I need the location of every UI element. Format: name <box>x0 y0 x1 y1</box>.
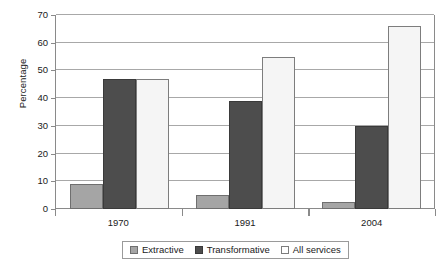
bar-group-1970 <box>56 15 182 209</box>
x-axis-tick-labels: 197019912004 <box>55 217 435 228</box>
bars-1991 <box>182 15 308 209</box>
y-tick-label-30: 30 <box>2 121 48 131</box>
y-tick-label-70: 70 <box>2 10 48 20</box>
bar-allservices-1991[interactable] <box>262 57 295 209</box>
x-tick-label-1970: 1970 <box>55 217 182 228</box>
bars-2004 <box>308 15 434 209</box>
legend-label-allservices: All services <box>293 244 341 255</box>
legend-entry-allservices[interactable]: All services <box>281 244 341 255</box>
bar-allservices-1970[interactable] <box>136 79 169 209</box>
x-tick-mark-2 <box>308 209 309 216</box>
y-tick-mark-40 <box>51 98 55 99</box>
legend-swatch-allservices-icon <box>281 246 289 254</box>
legend-entry-extractive[interactable]: Extractive <box>130 244 184 255</box>
bar-group-2004 <box>308 15 434 209</box>
bar-transformative-2004[interactable] <box>355 126 388 209</box>
x-tick-mark-3 <box>435 209 436 216</box>
bar-group-1991 <box>182 15 308 209</box>
y-tick-mark-20 <box>51 154 55 155</box>
x-axis-tick-marks <box>55 209 435 216</box>
bars-1970 <box>56 15 182 209</box>
legend-swatch-extractive-icon <box>130 246 138 254</box>
bar-transformative-1970[interactable] <box>103 79 136 209</box>
bar-allservices-2004[interactable] <box>388 26 421 209</box>
y-tick-mark-70 <box>51 15 55 16</box>
y-tick-label-0: 0 <box>2 204 48 214</box>
y-tick-label-50: 50 <box>2 65 48 75</box>
y-tick-label-40: 40 <box>2 93 48 103</box>
y-tick-mark-10 <box>51 181 55 182</box>
x-tick-label-2004: 2004 <box>308 217 435 228</box>
bar-extractive-2004[interactable] <box>322 202 355 209</box>
bar-transformative-1991[interactable] <box>229 101 262 209</box>
legend-entry-transformative[interactable]: Transformative <box>195 244 270 255</box>
x-tick-mark-1 <box>182 209 183 216</box>
plot-area <box>55 15 435 209</box>
y-tick-label-10: 10 <box>2 176 48 186</box>
chart-legend: ExtractiveTransformativeAll services <box>122 241 349 259</box>
x-tick-label-1991: 1991 <box>182 217 309 228</box>
y-tick-mark-50 <box>51 70 55 71</box>
bar-chart: Percentage 010203040506070 197019912004 … <box>0 0 448 278</box>
bar-groups <box>56 15 434 209</box>
y-tick-label-20: 20 <box>2 149 48 159</box>
y-tick-mark-30 <box>51 126 55 127</box>
legend-label-transformative: Transformative <box>207 244 270 255</box>
legend-swatch-transformative-icon <box>195 246 203 254</box>
bar-extractive-1970[interactable] <box>70 184 103 209</box>
legend-label-extractive: Extractive <box>142 244 184 255</box>
bar-extractive-1991[interactable] <box>196 195 229 209</box>
y-tick-mark-60 <box>51 43 55 44</box>
y-tick-label-60: 60 <box>2 38 48 48</box>
x-tick-mark-0 <box>55 209 56 216</box>
